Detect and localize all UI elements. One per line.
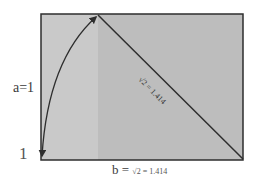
side-b-value: = 1.414 [141, 167, 168, 176]
root2-diagram [0, 0, 255, 176]
side-b-label: b = √2 = 1.414 [112, 163, 167, 176]
unit-label: 1 [19, 145, 28, 162]
side-b-prefix: b = [112, 162, 132, 176]
unit-square-region [41, 14, 98, 160]
side-b-root: √2 [132, 167, 140, 176]
side-a-label: a=1 [13, 81, 34, 95]
